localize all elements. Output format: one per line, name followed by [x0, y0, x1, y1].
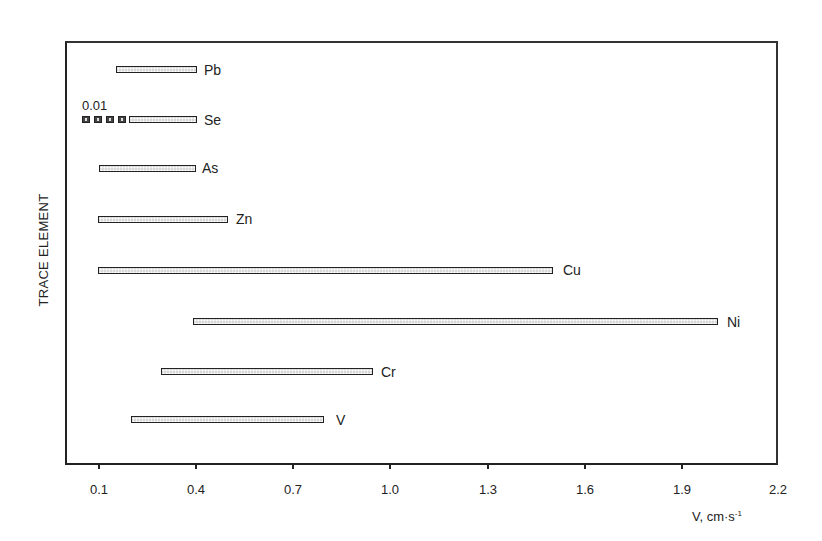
x-tick	[389, 463, 391, 469]
bar-pb	[116, 66, 197, 73]
bar-zn	[98, 216, 228, 223]
x-axis-label-text: V, cm·s	[692, 509, 735, 524]
label-pb: Pb	[204, 63, 221, 77]
label-cr: Cr	[381, 365, 396, 379]
x-axis-label-exponent: -1	[735, 509, 742, 518]
label-ni: Ni	[727, 315, 740, 329]
x-tick	[681, 463, 683, 469]
bar-se	[129, 116, 197, 123]
x-tick	[195, 463, 197, 469]
x-tick	[98, 463, 100, 469]
bar-cr	[161, 368, 373, 375]
x-axis-label: V, cm·s-1	[692, 509, 742, 524]
bar-se-dash-1	[82, 116, 90, 123]
label-cu: Cu	[563, 263, 581, 277]
label-zn: Zn	[236, 212, 252, 226]
bar-cu	[98, 267, 553, 274]
y-axis-label: TRACE ELEMENT	[36, 194, 51, 307]
bar-se-dash-2	[94, 116, 102, 123]
plot-area	[65, 41, 778, 465]
x-tick	[292, 463, 294, 469]
x-tick-label: 2.2	[769, 482, 787, 497]
x-tick-label: 1.0	[381, 482, 399, 497]
x-tick-label: 1.3	[479, 482, 497, 497]
x-tick-label: 1.6	[576, 482, 594, 497]
bar-se-dash-4	[118, 116, 126, 123]
bar-as	[99, 165, 196, 172]
x-tick-label: 0.7	[284, 482, 302, 497]
bar-v	[131, 416, 324, 423]
label-v: V	[336, 413, 345, 427]
x-tick-label: 1.9	[673, 482, 691, 497]
x-tick-label: 0.4	[187, 482, 205, 497]
label-as: As	[202, 161, 218, 175]
label-se: Se	[204, 113, 221, 127]
bar-ni	[193, 318, 718, 325]
x-tick	[584, 463, 586, 469]
x-tick-label: 0.1	[90, 482, 108, 497]
x-tick	[487, 463, 489, 469]
bar-se-dash-3	[106, 116, 114, 123]
se-annotation: 0.01	[82, 98, 107, 113]
